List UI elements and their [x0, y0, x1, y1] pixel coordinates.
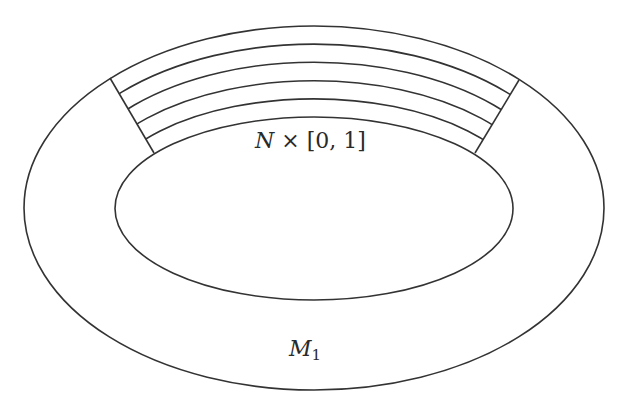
collar-curve-3 — [78, 81, 550, 336]
region-label-m: M — [289, 336, 312, 361]
collar-label: N × [0, 1] — [255, 128, 366, 153]
region-label-subscript: 1 — [312, 346, 322, 364]
collar-right-edge — [475, 80, 519, 153]
region-label: M1 — [289, 336, 321, 364]
collar-label-interval: × [0, 1] — [274, 128, 366, 153]
collar-curve-1 — [42, 44, 586, 372]
collar-level-curves — [42, 44, 586, 372]
collar-curve-2 — [60, 62, 568, 354]
collar-label-n: N — [255, 128, 274, 153]
collar-left-edge — [110, 78, 154, 153]
